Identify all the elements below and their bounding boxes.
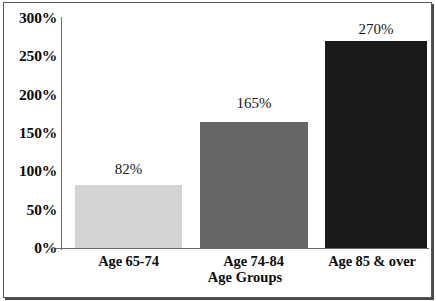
bar-value-label-age-65-74: 82% bbox=[75, 162, 182, 177]
x-axis-line bbox=[55, 248, 429, 249]
bar-value-label-age-74-84: 165% bbox=[200, 96, 308, 111]
x-axis-title: Age Groups bbox=[62, 270, 428, 285]
y-tick-label-50: 50% bbox=[0, 202, 57, 218]
y-tick-label-300: 300% bbox=[0, 10, 57, 26]
bar-age-74-84 bbox=[200, 122, 308, 249]
bar-age-85-over bbox=[325, 41, 427, 248]
category-label-age-65-74: Age 65-74 bbox=[66, 254, 191, 269]
y-axis-tick-labels: 300% 250% 200% 150% 100% 50% 0% bbox=[0, 0, 57, 301]
bar-chart-figure: 300% 250% 200% 150% 100% 50% 0% 82% 165%… bbox=[0, 0, 436, 301]
bar-value-label-age-85-over: 270% bbox=[325, 22, 427, 37]
y-tick-label-250: 250% bbox=[0, 49, 57, 65]
y-tick-label-150: 150% bbox=[0, 125, 57, 141]
bar-age-65-74 bbox=[75, 185, 182, 248]
y-tick-label-0: 0% bbox=[0, 240, 57, 256]
category-label-age-74-84: Age 74-84 bbox=[191, 254, 316, 269]
plot-area bbox=[62, 18, 428, 248]
category-label-age-85-over: Age 85 & over bbox=[311, 254, 433, 269]
y-tick-label-200: 200% bbox=[0, 87, 57, 103]
y-tick-label-100: 100% bbox=[0, 164, 57, 180]
